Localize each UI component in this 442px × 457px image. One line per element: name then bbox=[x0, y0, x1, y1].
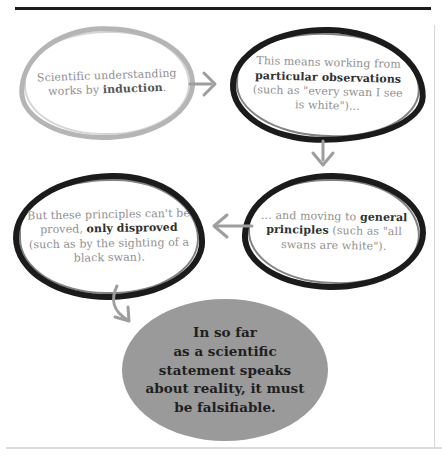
node-induction: Scientific understanding works by induct… bbox=[17, 23, 197, 143]
node-induction-text-bold: induction bbox=[103, 81, 163, 96]
conclusion-line: about reality, it must bbox=[146, 379, 305, 398]
node-induction-text: Scientific understanding works by induct… bbox=[33, 66, 182, 100]
node-disproved-text-part: (such as by the sighting of a black swan… bbox=[29, 235, 189, 264]
node-particular-text-part: (such as "every swan I see is white")... bbox=[253, 83, 403, 113]
node-conclusion-text: In so far as a scientific statement spea… bbox=[146, 323, 305, 416]
right-rule bbox=[434, 25, 435, 449]
node-particular-observations-text: This means working from particular obser… bbox=[251, 54, 404, 115]
curved-arrow-icon bbox=[101, 283, 149, 329]
conclusion-line: statement speaks bbox=[146, 361, 305, 380]
conclusion-line: be falsifiable. bbox=[146, 398, 305, 417]
arrow-right-icon bbox=[188, 68, 222, 100]
conclusion-line: as a scientific bbox=[146, 342, 305, 361]
node-disproved-text-bold: only disproved bbox=[86, 221, 177, 236]
node-general-text-part: ... and moving to bbox=[261, 209, 360, 224]
arrow-left-icon bbox=[208, 210, 254, 242]
diagram-canvas: Scientific understanding works by induct… bbox=[0, 0, 442, 457]
node-general-principles-text: ... and moving to general principles (su… bbox=[255, 209, 414, 255]
top-rule bbox=[15, 7, 431, 10]
node-general-principles: ... and moving to general principles (su… bbox=[241, 171, 427, 291]
node-only-disproved-text: But these principles can't be proved, on… bbox=[25, 206, 194, 266]
node-particular-observations: This means working from particular obser… bbox=[229, 24, 428, 145]
arrow-down-icon bbox=[308, 139, 338, 171]
conclusion-line: In so far bbox=[146, 323, 305, 342]
node-induction-text-part: . bbox=[163, 81, 167, 94]
node-conclusion: In so far as a scientific statement spea… bbox=[122, 299, 328, 441]
bottom-rule bbox=[6, 447, 442, 449]
